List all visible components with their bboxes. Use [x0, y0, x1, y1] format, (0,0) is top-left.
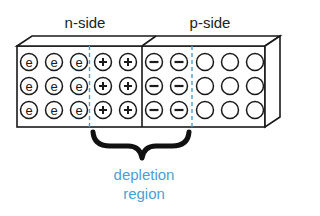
p-side-label: p-side [180, 14, 240, 31]
svg-text:e: e [50, 103, 57, 118]
electron-icon: e [71, 54, 88, 71]
negative-ion-icon [171, 102, 188, 119]
electron-icon: e [46, 54, 63, 71]
positive-ion-icon [120, 102, 137, 119]
svg-text:e: e [25, 103, 32, 118]
negative-ion-icon [171, 78, 188, 95]
positive-ion-icon [95, 54, 112, 71]
svg-text:e: e [25, 55, 32, 70]
electron-icon: e [71, 78, 88, 95]
positive-ion-icon [120, 54, 137, 71]
electron-icon: e [21, 54, 38, 71]
hole-icon [222, 54, 239, 71]
electron-icon: e [71, 102, 88, 119]
hole-icon [222, 78, 239, 95]
negative-ion-icon [171, 54, 188, 71]
hole-icon [222, 102, 239, 119]
electron-icon: e [46, 78, 63, 95]
positive-ion-icon [95, 78, 112, 95]
electron-icon: e [21, 102, 38, 119]
electron-icon: e [46, 102, 63, 119]
hole-icon [247, 54, 264, 71]
n-side-label: n-side [55, 14, 115, 31]
hole-icon [197, 102, 214, 119]
svg-text:e: e [50, 55, 57, 70]
negative-ion-icon [146, 78, 163, 95]
negative-ion-icon [146, 54, 163, 71]
svg-text:e: e [50, 79, 57, 94]
svg-text:e: e [25, 79, 32, 94]
hole-icon [197, 78, 214, 95]
svg-text:e: e [75, 103, 82, 118]
electron-icon: e [21, 78, 38, 95]
svg-text:e: e [75, 55, 82, 70]
hole-icon [197, 54, 214, 71]
negative-ion-icon [146, 102, 163, 119]
depletion-region-label-line2: region [104, 184, 184, 203]
svg-text:e: e [75, 79, 82, 94]
hole-icon [247, 102, 264, 119]
right-face [265, 36, 280, 127]
depletion-brace-icon [93, 132, 189, 158]
hole-icon [247, 78, 264, 95]
depletion-region-label-line1: depletion [104, 165, 184, 184]
positive-ion-icon [95, 102, 112, 119]
positive-ion-icon [120, 78, 137, 95]
